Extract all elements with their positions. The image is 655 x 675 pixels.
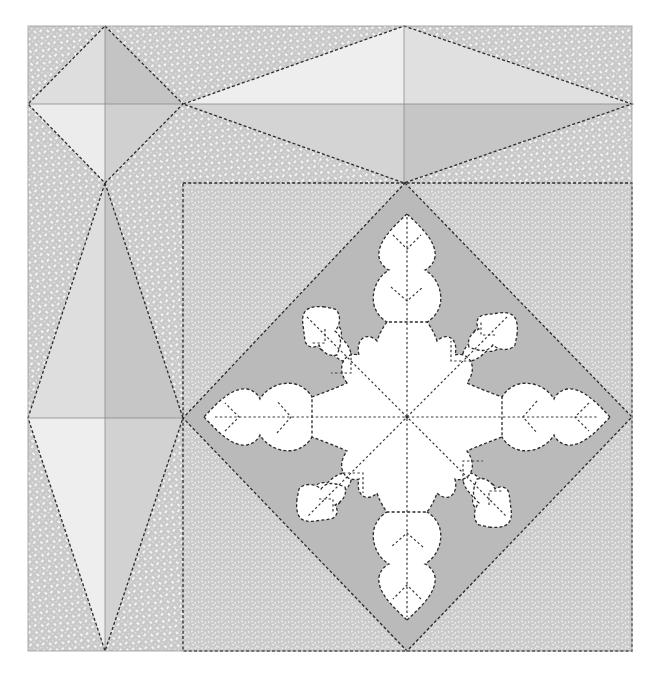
left-border-strip xyxy=(28,183,183,651)
top-border-strip xyxy=(183,26,632,183)
center-block xyxy=(183,183,632,651)
quilt-diagram xyxy=(0,0,655,675)
corner-square xyxy=(28,26,183,183)
